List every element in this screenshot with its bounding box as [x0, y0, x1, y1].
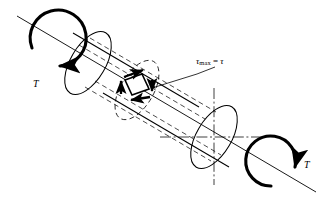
- cylinder-body: [55, 24, 229, 167]
- stress-element: [121, 70, 152, 100]
- torque-label-left: T: [33, 79, 39, 89]
- tau-value: τ: [220, 56, 223, 66]
- torque-arrow-left: [30, 10, 86, 66]
- torque-arrow-right: [246, 136, 296, 186]
- torque-label-right: T: [304, 160, 310, 170]
- tau-leader-line: [152, 67, 215, 88]
- torsion-shaft-figure: T T τmax = τ: [0, 0, 326, 211]
- shaft-axis-line: [17, 16, 316, 192]
- tau-subscript: max: [199, 59, 211, 66]
- diagram-canvas: [0, 0, 326, 211]
- shear-arrow-bottom: [131, 97, 150, 100]
- tau-max-label: τmax = τ: [196, 57, 224, 67]
